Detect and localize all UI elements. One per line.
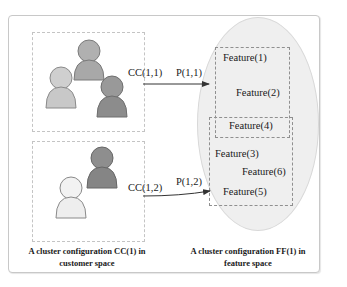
diagram-graphics xyxy=(0,0,347,287)
feature-2: Feature(2) xyxy=(236,87,280,98)
customer-space-caption-line1: A cluster configuration CC(1) in xyxy=(12,245,162,257)
feature-4: Feature(4) xyxy=(229,120,273,131)
cluster-label-cc-1-2: CC(1,2) xyxy=(128,182,162,193)
feature-space-caption-line1: A cluster configuration FF(1) in xyxy=(178,245,318,257)
feature-space-caption-line2: feature space xyxy=(178,257,318,269)
arrow-label-p-1-1: P(1,1) xyxy=(176,67,202,78)
feature-6: Feature(6) xyxy=(242,166,286,177)
customer-space-caption-line2: customer space xyxy=(12,257,162,269)
feature-3: Feature(3) xyxy=(215,148,259,159)
person-icon-light xyxy=(46,67,76,108)
person-icon-dark xyxy=(97,76,127,117)
customer-space-caption: A cluster configuration CC(1) in custome… xyxy=(12,245,162,269)
person-icon-white xyxy=(56,177,86,218)
person-icon-dark xyxy=(87,147,117,188)
feature-5: Feature(5) xyxy=(223,186,267,197)
person-icon-mid xyxy=(74,40,104,80)
cluster-label-cc-1-1: CC(1,1) xyxy=(128,67,162,78)
feature-space-caption: A cluster configuration FF(1) in feature… xyxy=(178,245,318,269)
feature-1: Feature(1) xyxy=(223,52,267,63)
arrow-label-p-1-2: P(1,2) xyxy=(176,176,202,187)
